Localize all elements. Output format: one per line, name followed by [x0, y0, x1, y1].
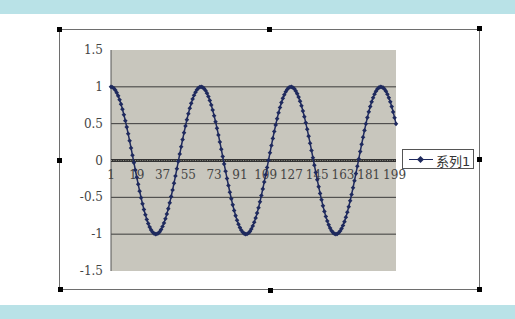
x-tick-label: 181: [357, 168, 380, 182]
x-tick-label: 199: [383, 168, 406, 182]
y-tick-label: -1: [91, 227, 103, 241]
y-tick-label: 0.5: [84, 117, 103, 131]
x-tick-label: 127: [280, 168, 303, 182]
x-tick-label: 37: [155, 168, 170, 182]
y-tick-label: 1: [95, 80, 103, 94]
x-tick-label: 91: [232, 168, 247, 182]
x-tick-label: 73: [206, 168, 221, 182]
legend-marker-icon: [417, 156, 424, 163]
y-tick-label: -0.5: [80, 190, 103, 204]
y-tick-label: 1.5: [84, 43, 103, 57]
y-tick-label: 0: [95, 154, 103, 168]
x-tick-label: 163: [332, 168, 355, 182]
legend-label: 系列1: [436, 151, 470, 170]
legend[interactable]: 系列1: [402, 149, 474, 169]
y-tick-label: -1.5: [80, 264, 103, 278]
x-tick-label: 1: [107, 168, 115, 182]
x-tick-label: 55: [181, 168, 196, 182]
